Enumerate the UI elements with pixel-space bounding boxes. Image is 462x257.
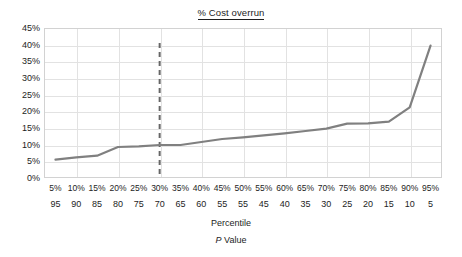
x-tick-percentile: 50% [234,181,251,195]
x-tick-pvalue: 30 [321,197,331,211]
x-tick-percentile: 45% [214,181,231,195]
x-tick-pvalue: 55 [238,197,248,211]
x-tick-pvalue: 15 [384,197,394,211]
x-tick-percentile: 85% [380,181,397,195]
x-axis-percentile-ticks: 5%10%15%20%25%30%35%40%45%50%55%60%65%70… [44,181,442,195]
x-tick-pvalue: 60 [196,197,206,211]
x-tick-percentile: 5% [49,181,61,195]
x-tick-percentile: 80% [360,181,377,195]
series-group [55,46,430,160]
x-tick-percentile: 15% [89,181,106,195]
x-axis-title-percentile: Percentile [0,218,462,228]
x-axis-title-percentile-text: Percentile [211,218,251,228]
x-tick-percentile: 30% [151,181,168,195]
x-tick-pvalue: 75 [134,197,144,211]
x-tick-percentile: 65% [297,181,314,195]
x-tick-pvalue: 25 [342,197,352,211]
x-tick-percentile: 10% [68,181,85,195]
x-tick-pvalue: 65 [175,197,185,211]
x-tick-pvalue: 45 [259,197,269,211]
x-tick-pvalue: 40 [280,197,290,211]
x-tick-percentile: 25% [130,181,147,195]
x-tick-pvalue: 35 [300,197,310,211]
x-tick-pvalue: 80 [113,197,123,211]
x-tick-pvalue: 10 [405,197,415,211]
x-tick-percentile: 40% [193,181,210,195]
x-tick-percentile: 60% [276,181,293,195]
x-tick-pvalue: 85 [92,197,102,211]
x-tick-percentile: 35% [172,181,189,195]
x-tick-pvalue: 95 [50,197,60,211]
x-tick-percentile: 70% [318,181,335,195]
x-tick-pvalue: 20 [363,197,373,211]
series-line [55,46,430,160]
x-axis-title-pvalue: P Value [0,235,462,245]
x-tick-percentile: 90% [401,181,418,195]
x-tick-percentile: 20% [109,181,126,195]
x-tick-pvalue: 55 [217,197,227,211]
pvalue-rest: Value [222,235,247,245]
x-tick-percentile: 55% [255,181,272,195]
cost-overrun-chart: % Cost overrun 0%5%10%15%20%25%30%35%40%… [0,0,462,257]
x-tick-percentile: 95% [422,181,439,195]
x-tick-pvalue: 90 [71,197,81,211]
x-axis-pvalue-ticks: 9590858075706560555545403530252015105 [44,197,442,211]
x-tick-pvalue: 70 [155,197,165,211]
x-tick-percentile: 75% [339,181,356,195]
x-tick-pvalue: 5 [428,197,433,211]
